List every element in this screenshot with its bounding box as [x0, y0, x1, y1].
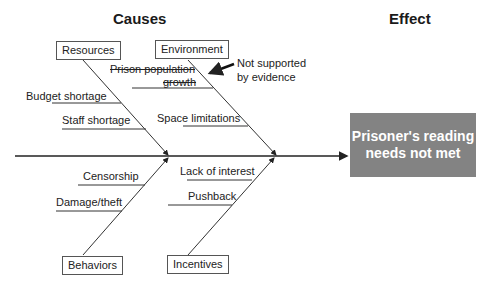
effect-header: Effect	[389, 10, 431, 27]
effect-box: Prisoner's reading needs not met	[350, 113, 476, 177]
causes-header: Causes	[113, 10, 166, 27]
category-environment: Environment	[155, 40, 229, 59]
cause-censorship: Censorship	[83, 170, 139, 183]
cause-pushback: Pushback	[188, 190, 236, 203]
cause-prison-population-line1: Prison population	[110, 63, 195, 76]
cause-budget-shortage: Budget shortage	[26, 90, 107, 103]
cause-staff-shortage: Staff shortage	[62, 114, 130, 127]
category-resources: Resources	[56, 41, 121, 60]
category-incentives: Incentives	[167, 255, 229, 274]
category-behaviors: Behaviors	[62, 256, 123, 275]
cause-lack-of-interest: Lack of interest	[180, 165, 255, 178]
cause-prison-population-line2: growth	[163, 76, 196, 89]
cause-space-limitations: Space limitations	[157, 112, 240, 125]
annotation-note: Not supported by evidence	[237, 56, 306, 84]
note-line2: by evidence	[237, 70, 306, 84]
note-line1: Not supported	[237, 56, 306, 70]
arrow-left-icon	[210, 64, 234, 73]
cause-damage-theft: Damage/theft	[56, 196, 122, 209]
